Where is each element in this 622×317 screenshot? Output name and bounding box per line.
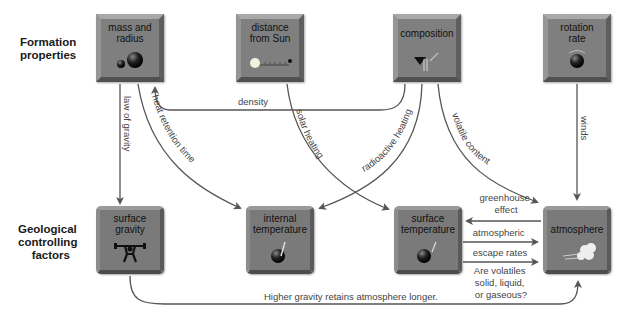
box-rotation-rate: rotation rate — [543, 14, 611, 82]
box-surface-temperature: surface temperature — [394, 206, 462, 274]
sun-distance-ruler-icon — [241, 19, 299, 77]
label-heat-retention: heat retention time — [150, 93, 198, 164]
spinning-sphere-icon — [548, 19, 606, 77]
weightlifter-icon — [100, 210, 160, 270]
sphere-thermometer-icon — [250, 210, 310, 270]
label-solar-heating: solar heating — [294, 108, 326, 161]
label-greenhouse: greenhouse effect — [480, 192, 533, 215]
cloud-icon — [547, 210, 607, 270]
label-volatiles-state: Are volatiles solid, liquid, or gaseous? — [474, 265, 528, 300]
box-distance-from-sun: distance from Sun — [236, 14, 304, 82]
label-winds: winds — [579, 115, 590, 141]
box-composition: composition — [393, 14, 461, 82]
label-volatile-content: volatile content — [450, 111, 492, 166]
box-mass-and-radius: mass and radius — [96, 14, 164, 82]
box-internal-temperature: internal temperature — [246, 206, 314, 274]
two-spheres-icon — [101, 19, 159, 77]
label-higher-gravity: Higher gravity retains atmosphere longer… — [264, 291, 438, 302]
box-atmosphere: atmosphere — [543, 206, 611, 274]
sphere-thermometer-icon — [398, 210, 458, 270]
arrow-radioactive-heating — [320, 84, 422, 208]
arrow-volatile-content — [438, 84, 537, 202]
label-radioactive-heating: radioactive heating — [359, 107, 413, 173]
label-density: density — [238, 96, 268, 107]
arrow-solar-heating — [287, 84, 388, 209]
beaker-pour-icon — [398, 19, 456, 77]
arrow-density — [155, 84, 405, 110]
label-law-of-gravity: law of gravity — [122, 96, 133, 152]
box-surface-gravity: surface gravity — [96, 206, 164, 274]
